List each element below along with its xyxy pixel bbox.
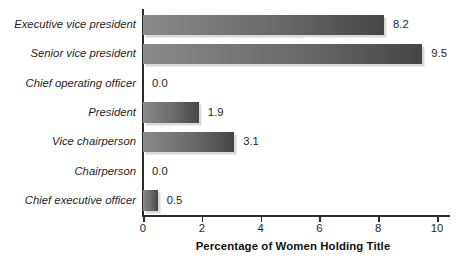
chart-row: Vice chairperson3.1 — [0, 127, 473, 156]
bar — [143, 132, 234, 153]
category-label: Vice chairperson — [0, 127, 136, 156]
bar-container — [143, 39, 422, 68]
bar-value-label: 8.2 — [393, 10, 409, 39]
bar-value-label: 9.5 — [431, 39, 447, 68]
chart-row: President1.9 — [0, 98, 473, 127]
bar-chart: Executive vice president8.2Senior vice p… — [0, 0, 473, 266]
x-tick-label: 8 — [358, 222, 398, 234]
bar-value-label: 0.0 — [152, 69, 168, 98]
bar-container — [143, 127, 234, 156]
bar-value-label: 0.5 — [167, 186, 183, 215]
category-label: Chief operating officer — [0, 69, 136, 98]
chart-row: Executive vice president8.2 — [0, 10, 473, 39]
chart-row: Senior vice president9.5 — [0, 39, 473, 68]
chart-row: Chairperson0.0 — [0, 157, 473, 186]
bar-container — [143, 98, 199, 127]
category-label: Chairperson — [0, 157, 136, 186]
x-axis-title: Percentage of Women Holding Title — [143, 240, 443, 252]
x-tick-label: 2 — [182, 222, 222, 234]
x-tick-label: 10 — [417, 222, 457, 234]
chart-row: Chief executive officer0.5 — [0, 186, 473, 215]
bar-container — [143, 10, 384, 39]
x-tick-label: 0 — [123, 222, 163, 234]
bar-value-label: 3.1 — [243, 127, 259, 156]
bar-value-label: 1.9 — [208, 98, 224, 127]
category-label: Senior vice president — [0, 39, 136, 68]
x-tick-label: 4 — [241, 222, 281, 234]
category-label: Executive vice president — [0, 10, 136, 39]
bar — [143, 190, 158, 211]
chart-row: Chief operating officer0.0 — [0, 69, 473, 98]
bar — [143, 15, 384, 36]
category-label: Chief executive officer — [0, 186, 136, 215]
x-tick-label: 6 — [299, 222, 339, 234]
bar — [143, 44, 422, 65]
x-axis-line — [142, 215, 450, 217]
category-label: President — [0, 98, 136, 127]
bar — [143, 102, 199, 123]
bar-container — [143, 186, 158, 215]
bar-value-label: 0.0 — [152, 157, 168, 186]
